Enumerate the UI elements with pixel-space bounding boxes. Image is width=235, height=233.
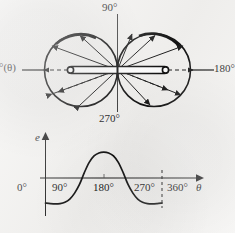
arrow-right-upper-steep (118, 34, 133, 70)
arrow-left-upper-inner (80, 36, 118, 71)
polar-label-270: 270° (99, 113, 120, 124)
waveform-tick-label-270: 270° (134, 182, 155, 193)
polar-label-90: 90° (102, 2, 117, 13)
waveform-y-axis-arrowhead (42, 132, 50, 140)
waveform-tick-label-180: 180° (93, 182, 114, 193)
waveform-y-axis-label: e (35, 132, 40, 143)
arrow-left-lower-inner (80, 70, 118, 105)
left-lobe-crown (56, 35, 96, 44)
polar-label-theta: °(θ) (0, 62, 16, 73)
dipole-left-terminal-icon (67, 67, 73, 73)
antenna-pattern-figure: 90° 270° 180° °(θ) e 0° 90° 180° 270° 36… (0, 0, 235, 233)
waveform-x-axis-label: θ (196, 182, 201, 193)
polar-label-180: 180° (214, 63, 235, 74)
dipole-right-terminal-icon (162, 67, 168, 73)
waveform-tick-label-90: 90° (52, 182, 67, 193)
arrow-right-upper-inner (118, 36, 156, 71)
waveform-tick-label-360: 360° (167, 182, 188, 193)
waveform-tick-label-0: 0° (17, 182, 27, 193)
